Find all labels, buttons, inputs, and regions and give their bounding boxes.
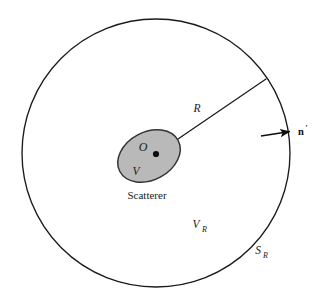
radius-label: R (192, 102, 200, 114)
normal-vector-prime-mark: ′ (306, 124, 308, 133)
enclosed-region-label: V R (192, 218, 207, 234)
enclosed-region-label-main: V (192, 218, 201, 230)
boundary-surface-label-main: S (255, 244, 261, 256)
normal-vector-label: n ′ (298, 124, 308, 137)
boundary-surface-label-subscript: R (262, 251, 268, 260)
scattering-geometry-figure: O V Scatterer R V R S R n ′ (0, 0, 331, 308)
scattering-diagram-canvas: O V Scatterer R V R S R n ′ (0, 0, 331, 308)
scatterer-region (109, 119, 190, 192)
origin-label: O (139, 140, 148, 154)
enclosed-region-label-subscript: R (201, 225, 207, 234)
normal-vector-label-main: n (298, 126, 304, 137)
scatterer-caption: Scatterer (127, 189, 166, 201)
outward-normal-arrow (261, 132, 290, 137)
origin-point (153, 151, 159, 157)
boundary-surface-label: S R (255, 244, 268, 260)
